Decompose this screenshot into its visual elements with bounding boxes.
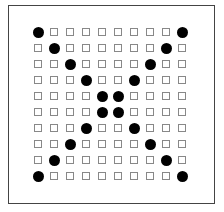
- board-cell[interactable]: [94, 136, 110, 152]
- board-cell[interactable]: [78, 104, 94, 120]
- board-cell[interactable]: [142, 40, 158, 56]
- board-cell[interactable]: [142, 120, 158, 136]
- board-cell[interactable]: [62, 168, 78, 184]
- board-cell[interactable]: [62, 72, 78, 88]
- board-cell[interactable]: [62, 40, 78, 56]
- board-cell[interactable]: [78, 168, 94, 184]
- board-cell[interactable]: [142, 104, 158, 120]
- board-cell[interactable]: [174, 136, 190, 152]
- board-cell[interactable]: [62, 104, 78, 120]
- board-cell[interactable]: [94, 120, 110, 136]
- board-cell[interactable]: [46, 120, 62, 136]
- board-cell[interactable]: [30, 40, 46, 56]
- board-cell[interactable]: [30, 104, 46, 120]
- board-cell[interactable]: [62, 88, 78, 104]
- board-cell[interactable]: [94, 168, 110, 184]
- board-cell[interactable]: [30, 88, 46, 104]
- board-cell[interactable]: [158, 56, 174, 72]
- board-cell[interactable]: [46, 136, 62, 152]
- board-cell[interactable]: [94, 56, 110, 72]
- board-cell[interactable]: [94, 104, 110, 120]
- board-cell[interactable]: [78, 88, 94, 104]
- board-cell[interactable]: [142, 88, 158, 104]
- board-cell[interactable]: [142, 136, 158, 152]
- board-cell[interactable]: [158, 72, 174, 88]
- board-cell[interactable]: [158, 24, 174, 40]
- board-cell[interactable]: [158, 104, 174, 120]
- board-cell[interactable]: [46, 56, 62, 72]
- board-cell[interactable]: [78, 72, 94, 88]
- board-cell[interactable]: [46, 168, 62, 184]
- board-cell[interactable]: [126, 72, 142, 88]
- board-cell[interactable]: [158, 168, 174, 184]
- board-cell[interactable]: [78, 40, 94, 56]
- board-cell[interactable]: [158, 136, 174, 152]
- board-cell[interactable]: [110, 56, 126, 72]
- board-cell[interactable]: [158, 152, 174, 168]
- board-cell[interactable]: [174, 152, 190, 168]
- board-cell[interactable]: [158, 88, 174, 104]
- board-cell[interactable]: [62, 24, 78, 40]
- board-cell[interactable]: [126, 88, 142, 104]
- board-cell[interactable]: [30, 168, 46, 184]
- board-cell[interactable]: [126, 168, 142, 184]
- board-cell[interactable]: [174, 40, 190, 56]
- board-cell[interactable]: [62, 136, 78, 152]
- board-cell[interactable]: [126, 104, 142, 120]
- board-cell[interactable]: [126, 56, 142, 72]
- board-cell[interactable]: [142, 24, 158, 40]
- board-cell[interactable]: [46, 24, 62, 40]
- board-cell[interactable]: [30, 152, 46, 168]
- board-cell[interactable]: [174, 24, 190, 40]
- board-cell[interactable]: [142, 72, 158, 88]
- board-cell[interactable]: [78, 56, 94, 72]
- board-cell[interactable]: [62, 120, 78, 136]
- board-cell[interactable]: [126, 40, 142, 56]
- board-cell[interactable]: [174, 56, 190, 72]
- board-cell[interactable]: [94, 24, 110, 40]
- board-cell[interactable]: [110, 152, 126, 168]
- board-cell[interactable]: [142, 56, 158, 72]
- board-cell[interactable]: [126, 120, 142, 136]
- board-cell[interactable]: [46, 72, 62, 88]
- board-cell[interactable]: [94, 72, 110, 88]
- board-cell[interactable]: [158, 120, 174, 136]
- board-cell[interactable]: [174, 72, 190, 88]
- board-cell[interactable]: [174, 168, 190, 184]
- board-cell[interactable]: [110, 24, 126, 40]
- board-cell[interactable]: [142, 152, 158, 168]
- board-cell[interactable]: [30, 120, 46, 136]
- board-cell[interactable]: [94, 152, 110, 168]
- board-cell[interactable]: [110, 72, 126, 88]
- board-cell[interactable]: [78, 120, 94, 136]
- board-cell[interactable]: [174, 104, 190, 120]
- board-cell[interactable]: [30, 24, 46, 40]
- board-cell[interactable]: [46, 88, 62, 104]
- board-cell[interactable]: [110, 40, 126, 56]
- board-cell[interactable]: [126, 24, 142, 40]
- board-cell[interactable]: [30, 56, 46, 72]
- board-cell[interactable]: [142, 168, 158, 184]
- board-cell[interactable]: [158, 40, 174, 56]
- board-cell[interactable]: [126, 136, 142, 152]
- board-cell[interactable]: [110, 136, 126, 152]
- board-cell[interactable]: [110, 88, 126, 104]
- board-cell[interactable]: [94, 88, 110, 104]
- board-cell[interactable]: [30, 72, 46, 88]
- board-cell[interactable]: [30, 136, 46, 152]
- board-cell[interactable]: [46, 152, 62, 168]
- board-cell[interactable]: [78, 152, 94, 168]
- board-cell[interactable]: [78, 24, 94, 40]
- board-cell[interactable]: [110, 120, 126, 136]
- board-cell[interactable]: [62, 152, 78, 168]
- board-cell[interactable]: [78, 136, 94, 152]
- board-cell[interactable]: [110, 168, 126, 184]
- board-cell[interactable]: [110, 104, 126, 120]
- board-cell[interactable]: [62, 56, 78, 72]
- board-cell[interactable]: [46, 104, 62, 120]
- board-cell[interactable]: [126, 152, 142, 168]
- board-cell[interactable]: [46, 40, 62, 56]
- board-cell[interactable]: [174, 120, 190, 136]
- board-cell[interactable]: [174, 88, 190, 104]
- board-cell[interactable]: [94, 40, 110, 56]
